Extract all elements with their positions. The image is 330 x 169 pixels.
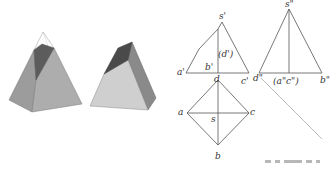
pyramid-3d-left	[9, 32, 82, 112]
label-front-a: a'	[177, 68, 185, 77]
figure-canvas: s' (d') b' a' c' s" d" (a"c") b" d a s c…	[0, 0, 330, 169]
top-view	[187, 80, 249, 145]
side-view	[259, 9, 322, 73]
projection-diagonal-line	[261, 78, 322, 139]
label-top-d: d	[214, 75, 220, 84]
pyramid-3d-right	[90, 42, 156, 110]
label-front-s: s'	[219, 12, 226, 21]
label-top-s: s	[211, 115, 216, 124]
label-top-b: b	[215, 152, 221, 161]
front-view	[186, 22, 249, 73]
label-side-s: s"	[285, 0, 294, 9]
label-top-a: a	[178, 108, 183, 117]
label-side-ac-hidden: (a"c")	[273, 77, 299, 86]
label-front-d-hidden: (d')	[218, 50, 233, 59]
label-side-b: b"	[320, 76, 330, 85]
label-front-c: c'	[241, 77, 249, 86]
label-front-b: b'	[205, 63, 213, 72]
label-side-d: d"	[253, 74, 263, 83]
watermark-mark	[265, 160, 329, 163]
label-top-c: c	[250, 108, 255, 117]
